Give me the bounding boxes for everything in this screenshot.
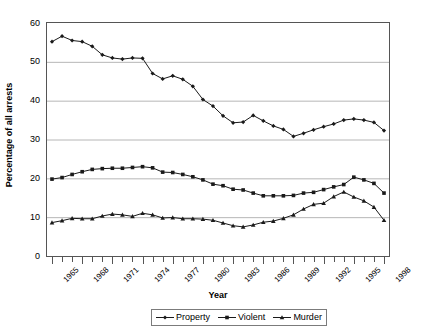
data-point-marker [362, 178, 366, 182]
x-tick [143, 257, 144, 264]
y-axis-title: Percentage of all arrests [0, 0, 18, 270]
x-tick [213, 257, 214, 262]
data-point-marker [163, 315, 167, 319]
data-point-marker [291, 213, 296, 217]
x-tick [263, 257, 264, 264]
y-axis-title-label: Percentage of all arrests [4, 83, 14, 188]
data-point-marker [50, 177, 54, 181]
x-tick [223, 257, 224, 262]
data-point-marker [312, 191, 316, 195]
data-point-marker [70, 38, 74, 42]
series-murder [50, 190, 387, 229]
data-point-marker [60, 176, 64, 180]
data-point-marker [171, 74, 175, 78]
plot-svg [47, 23, 389, 256]
data-point-marker [231, 187, 235, 191]
legend-label: Violent [238, 312, 265, 323]
data-point-marker [110, 56, 114, 60]
data-point-marker [302, 191, 306, 195]
data-point-marker [141, 165, 145, 169]
x-tick [354, 257, 355, 264]
legend-label: Murder [293, 312, 322, 323]
x-axis-title: Year [46, 290, 390, 300]
legend-diamond-icon [156, 313, 174, 322]
arrests-line-chart: Percentage of all arrests 0102030405060 … [0, 0, 422, 335]
data-point-marker [352, 175, 356, 179]
data-point-marker [161, 170, 165, 174]
data-point-marker [382, 191, 386, 195]
x-tick-label: 1986 [273, 266, 291, 284]
data-point-marker [261, 119, 265, 123]
data-point-marker [342, 183, 346, 187]
x-tick [193, 257, 194, 262]
data-point-marker [241, 188, 245, 192]
x-tick-label: 1998 [394, 266, 412, 284]
data-point-marker [201, 178, 205, 182]
x-tick [344, 257, 345, 262]
x-tick [112, 257, 113, 264]
x-tick [374, 257, 375, 262]
y-tick-label: 10 [18, 213, 40, 222]
y-tick-label: 20 [18, 174, 40, 183]
data-point-marker [272, 194, 276, 198]
data-point-marker [362, 118, 366, 122]
data-point-marker [301, 131, 305, 135]
data-point-marker [225, 316, 229, 320]
data-point-marker [292, 194, 296, 198]
x-tick-label: 1977 [183, 266, 201, 284]
data-point-marker [332, 122, 336, 126]
series-property [50, 34, 386, 138]
data-point-marker [191, 175, 195, 179]
x-tick [364, 257, 365, 262]
x-tick [72, 257, 73, 262]
data-point-marker [342, 118, 346, 122]
data-point-marker [332, 185, 336, 189]
data-point-marker [322, 125, 326, 129]
x-tick [253, 257, 254, 262]
x-tick [384, 257, 385, 264]
x-tick [304, 257, 305, 262]
data-point-marker [311, 128, 315, 132]
x-tick-label: 1971 [123, 266, 141, 284]
legend-label: Property [176, 312, 210, 323]
x-tick [293, 257, 294, 264]
x-tick [183, 257, 184, 262]
x-tick [243, 257, 244, 262]
x-tick [52, 257, 53, 264]
data-point-marker [221, 184, 225, 188]
x-tick [283, 257, 284, 262]
data-point-marker [131, 166, 135, 170]
legend-item-property[interactable]: Property [156, 312, 210, 323]
data-point-marker [322, 188, 326, 192]
x-tick [163, 257, 164, 262]
series-line [52, 167, 384, 196]
x-tick [273, 257, 274, 262]
x-tick [233, 257, 234, 264]
data-point-marker [60, 34, 64, 38]
x-tick-label: 1968 [92, 266, 110, 284]
data-point-marker [372, 182, 376, 186]
data-point-marker [50, 40, 54, 44]
data-point-marker [282, 194, 286, 198]
data-point-marker [271, 124, 275, 128]
legend-item-murder[interactable]: Murder [273, 312, 322, 323]
chart-legend: PropertyViolentMurder [151, 309, 327, 326]
data-point-marker [121, 166, 125, 170]
data-point-marker [101, 167, 105, 171]
x-tick-label: 1974 [153, 266, 171, 284]
data-point-marker [352, 117, 356, 121]
x-tick [324, 257, 325, 264]
legend-triangle-icon [273, 313, 291, 322]
x-tick [314, 257, 315, 262]
x-tick [122, 257, 123, 262]
data-point-marker [161, 77, 165, 81]
x-tick [82, 257, 83, 264]
x-tick-label: 1989 [304, 266, 322, 284]
legend-item-violent[interactable]: Violent [218, 312, 265, 323]
data-point-marker [70, 173, 74, 177]
legend-square-icon [218, 313, 236, 322]
x-axis-ticks [46, 257, 390, 264]
x-tick-label: 1980 [213, 266, 231, 284]
y-tick-label: 30 [18, 135, 40, 144]
data-point-marker [251, 191, 255, 195]
